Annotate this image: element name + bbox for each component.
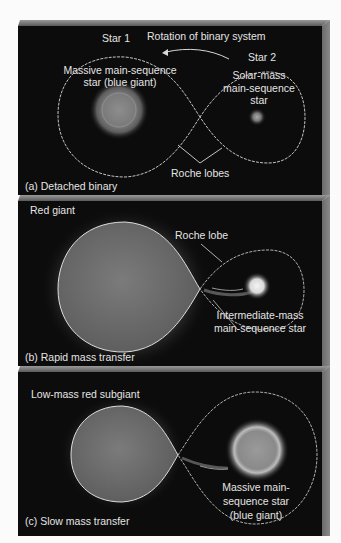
label-companion-b-2: main-sequence star bbox=[212, 322, 308, 334]
intermediate-mass-star bbox=[243, 272, 271, 300]
label-red-subgiant: Low-mass red subgiant bbox=[31, 388, 140, 400]
label-star-2-desc-2: main-sequence bbox=[222, 82, 296, 94]
label-companion-c-1: Massive main- bbox=[218, 481, 294, 493]
panel-b-graphics bbox=[40, 208, 304, 368]
label-star-1-desc-1: Massive main-sequence bbox=[60, 64, 180, 76]
label-roche-lobe: Roche lobe bbox=[175, 229, 228, 241]
label-companion-b-1: Intermediate-mass bbox=[212, 309, 308, 321]
label-star-2-desc-1: Solar-mass bbox=[222, 69, 296, 81]
label-star-2-desc-3: star bbox=[222, 94, 296, 106]
label-companion-c-3: (blue giant) bbox=[218, 509, 294, 521]
caption-a: (a) Detached binary bbox=[25, 180, 117, 192]
label-star-1: Star 1 bbox=[102, 32, 130, 44]
star-1-blue-giant bbox=[89, 80, 149, 140]
massive-blue-giant-star bbox=[225, 418, 289, 482]
label-star-1-desc-2: star (blue giant) bbox=[60, 76, 180, 88]
caption-b: (b) Rapid mass transfer bbox=[25, 351, 135, 363]
label-roche-lobes: Roche lobes bbox=[171, 167, 229, 179]
label-red-giant: Red giant bbox=[30, 204, 75, 216]
star-2-solar-mass bbox=[248, 108, 266, 126]
caption-c: (c) Slow mass transfer bbox=[25, 515, 129, 527]
label-star-2: Star 2 bbox=[248, 51, 276, 63]
label-companion-c-2: sequence star bbox=[218, 495, 294, 507]
label-rotation: Rotation of binary system bbox=[147, 30, 265, 42]
rotation-arrow-icon bbox=[162, 49, 168, 56]
